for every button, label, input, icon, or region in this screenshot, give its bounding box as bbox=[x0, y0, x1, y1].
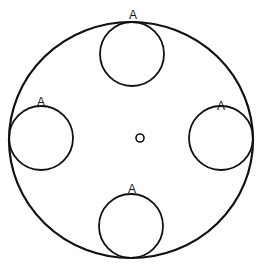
label-left: A bbox=[37, 95, 45, 109]
outer-circle bbox=[9, 22, 253, 258]
diagram-svg: A A A A bbox=[0, 0, 260, 266]
label-bottom: A bbox=[128, 182, 136, 196]
small-circle-right bbox=[189, 106, 253, 170]
small-circle-bottom bbox=[99, 194, 163, 258]
diagram-canvas: A A A A bbox=[0, 0, 260, 266]
small-circle-top bbox=[100, 22, 164, 86]
small-circle-left bbox=[9, 106, 73, 170]
label-top: A bbox=[129, 8, 137, 22]
center-mark bbox=[136, 134, 144, 142]
label-right: A bbox=[217, 99, 225, 113]
